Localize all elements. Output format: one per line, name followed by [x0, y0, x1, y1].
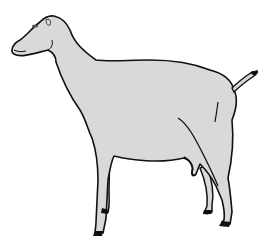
goat-eye: [32, 25, 38, 28]
goat-ear: [46, 19, 51, 25]
goat-illustration: goat illustration: [0, 0, 272, 246]
hoof-hind-far: [203, 210, 212, 214]
goat-body: [12, 16, 236, 233]
goat-tail: [232, 72, 255, 92]
hoof-hind-near: [219, 221, 231, 227]
goat-drawing: [0, 0, 272, 246]
